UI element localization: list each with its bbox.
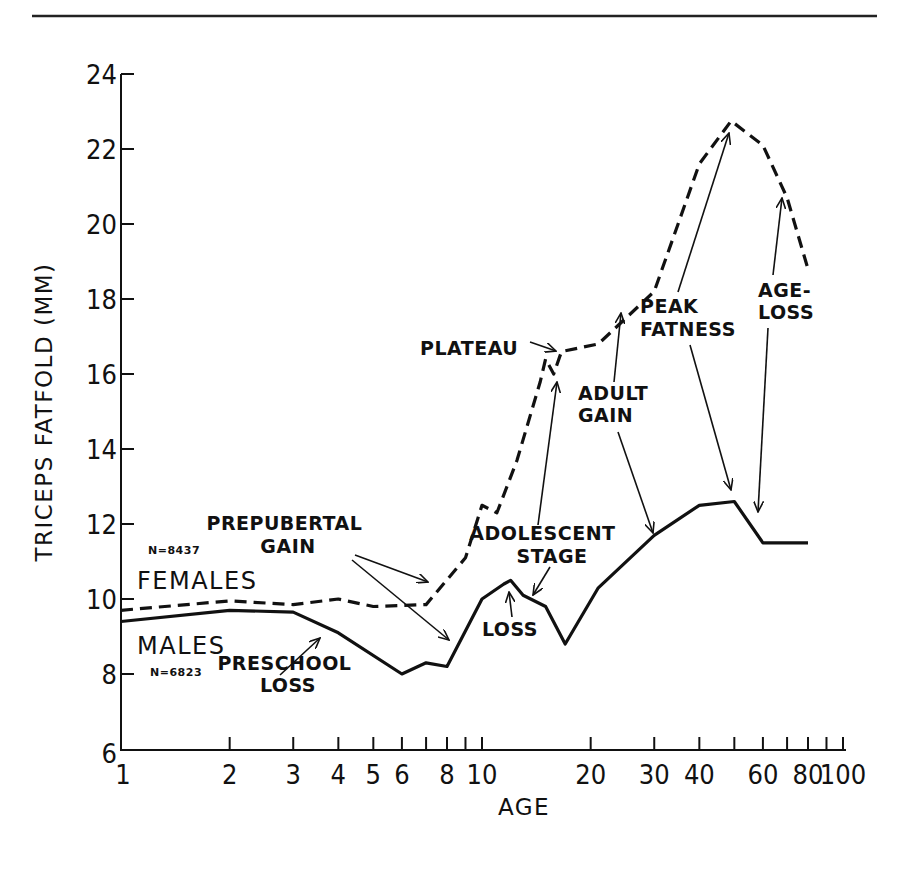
annotation-preschool-loss: PRESCHOOL LOSS [217,652,358,696]
x-tick-label: 20 [575,759,606,790]
x-tick-label: 4 [331,759,346,790]
x-tick-label: 3 [286,759,301,790]
arrow-adult-gain-males [618,432,653,533]
annotation-prepubertal-gain: PREPUBERTAL GAIN [206,512,369,557]
n-males-label: N=6823 [150,666,202,679]
x-axis-title: AGE [498,794,550,820]
y-tick-label: 10 [86,584,117,615]
x-tick-label: 1 [115,759,130,790]
axes [120,74,846,750]
x-tick-label: 40 [684,759,715,790]
arrow-plateau [530,342,556,351]
x-axis-ticks: 1234568102030406080100 [115,737,866,790]
arrow-prepubertal-gain-females [355,555,428,582]
annotation-peak-fatness: PEAK FATNESS [640,295,736,340]
y-axis-title: TRICEPS FATFOLD (MM) [31,262,57,562]
x-tick-label: 60 [747,759,778,790]
arrow-age-loss-males [758,328,768,512]
arrow-adolescent-stage-females [538,382,557,525]
x-tick-label: 5 [366,759,381,790]
y-tick-label: 18 [86,284,117,315]
males-label: MALES [137,632,225,660]
x-tick-label: 6 [394,759,409,790]
females-label: FEMALES [137,567,257,595]
x-tick-label: 100 [820,759,866,790]
n-females-label: N=8437 [148,544,200,557]
arrow-adolescent-stage-males [533,567,550,595]
arrow-age-loss-females [773,198,782,275]
annotation-arrows [280,133,782,675]
y-tick-label: 8 [102,659,117,690]
annotation-adult-gain: ADULT GAIN [578,382,655,426]
y-tick-label: 20 [86,209,117,240]
y-tick-label: 14 [86,434,117,465]
annotation-loss: LOSS [482,618,538,640]
arrow-adult-gain-females [614,313,621,382]
x-tick-label: 10 [467,759,498,790]
y-tick-label: 12 [86,509,117,540]
y-tick-label: 24 [86,59,117,90]
annotation-adolescent-stage: ADOLESCENT STAGE [469,522,622,567]
y-tick-label: 22 [86,134,117,165]
annotation-age-loss: AGE- LOSS [758,279,818,323]
arrow-peak-fatness-males [690,345,731,490]
y-tick-label: 16 [86,359,117,390]
x-tick-label: 8 [439,759,454,790]
chart: 681012141618202224 123456810203040608010… [0,0,909,873]
y-axis-ticks: 681012141618202224 [86,59,134,769]
x-tick-label: 30 [639,759,670,790]
arrow-loss [509,592,512,617]
females-line [121,121,808,610]
x-tick-label: 2 [222,759,237,790]
annotation-plateau: PLATEAU [420,337,518,359]
